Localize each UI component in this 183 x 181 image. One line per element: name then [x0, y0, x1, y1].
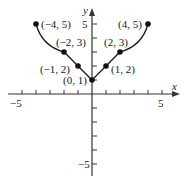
- y-axis-arrow-icon: [89, 8, 95, 16]
- y-axis-label: y: [82, 4, 88, 16]
- point-label: (4, 5): [118, 18, 142, 31]
- graph: x y −5 5 5 −5 (−4, 5) (−2, 3) (−1, 2) (0…: [0, 0, 183, 181]
- y-tick-label-5: 5: [82, 18, 88, 30]
- x-axis-label: x: [171, 80, 177, 92]
- y-tick-label-neg5: −5: [78, 158, 90, 170]
- point-label: (0, 1): [63, 74, 87, 87]
- point-label: (1, 2): [111, 63, 135, 76]
- x-tick-label-neg5: −5: [10, 97, 22, 109]
- point-label: (−2, 3): [56, 36, 86, 49]
- point-label: (−4, 5): [41, 18, 71, 31]
- x-tick-label-5: 5: [158, 97, 164, 109]
- point-label: (2, 3): [104, 36, 128, 49]
